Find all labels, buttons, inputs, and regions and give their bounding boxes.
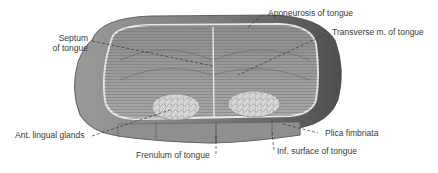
label-septum-line2: of tongue [44, 43, 88, 53]
label-septum-line1: Septum [44, 33, 88, 43]
label-aponeurosis: Aponeurosis of tongue [268, 8, 353, 18]
cut-surface [104, 24, 318, 119]
label-septum: Septum of tongue [44, 33, 88, 53]
label-frenulum: Frenulum of tongue [136, 150, 210, 160]
label-inf-surface: Inf. surface of tongue [277, 146, 357, 156]
label-ant-lingual-glands: Ant. lingual glands [15, 130, 84, 140]
tongue-cross-section-illustration [0, 0, 438, 173]
label-plica-fimbriata: Plica fimbriata [325, 128, 378, 138]
label-transverse-muscle: Transverse m. of tongue [332, 27, 424, 37]
